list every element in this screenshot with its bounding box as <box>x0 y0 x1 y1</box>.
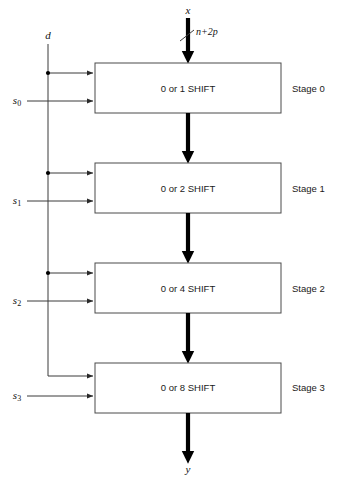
control-signal-label: d <box>45 29 51 41</box>
control-junction-dot-0 <box>46 71 50 75</box>
barrel-shifter-diagram: x n+2p d 0 or 1 SHIFT Stage 0 s0 0 or 2 … <box>0 0 349 485</box>
control-junction-dot-2 <box>46 271 50 275</box>
stage-name-label-1: Stage 1 <box>292 183 325 194</box>
select-signal-label-2: s2 <box>13 294 21 308</box>
stage-name-label-3: Stage 3 <box>292 382 325 393</box>
stage-box-label-2: 0 or 4 SHIFT <box>161 283 216 294</box>
stage-name-label-0: Stage 0 <box>292 83 325 94</box>
select-signal-label-0: s0 <box>13 94 21 108</box>
stage-box-label-0: 0 or 1 SHIFT <box>161 83 216 94</box>
figure-canvas: x n+2p d 0 or 1 SHIFT Stage 0 s0 0 or 2 … <box>0 0 349 485</box>
select-signal-label-1: s1 <box>13 194 21 208</box>
control-junction-dot-1 <box>46 171 50 175</box>
stage-box-label-3: 0 or 8 SHIFT <box>161 382 216 393</box>
stage-name-label-2: Stage 2 <box>292 283 325 294</box>
stage-box-label-1: 0 or 2 SHIFT <box>161 183 216 194</box>
output-signal-label: y <box>185 463 191 475</box>
select-signal-label-3: s3 <box>13 389 21 403</box>
input-signal-label: x <box>185 4 191 16</box>
input-width-label: n+2p <box>196 26 218 37</box>
